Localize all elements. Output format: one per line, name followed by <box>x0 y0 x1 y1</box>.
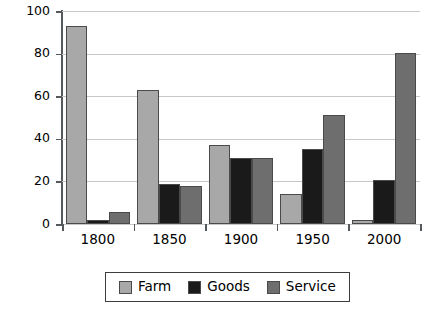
bar-service-1900 <box>252 158 274 224</box>
legend-item-goods[interactable]: Goods <box>188 280 250 294</box>
x-tick-mark <box>134 224 136 231</box>
legend-swatch-service-icon <box>267 281 280 294</box>
legend-swatch-farm-icon <box>119 281 132 294</box>
chart-legend: FarmGoodsService <box>105 272 350 302</box>
x-tick-label: 1950 <box>277 233 349 247</box>
x-tick-label: 1800 <box>62 233 134 247</box>
bar-farm-1900 <box>209 145 231 224</box>
x-tick-mark <box>348 224 350 231</box>
y-tick-label: 0 <box>14 218 50 231</box>
x-tick-label: 2000 <box>348 233 420 247</box>
legend-label: Farm <box>138 280 171 294</box>
x-tick-mark <box>205 224 207 231</box>
y-tick-label: 100 <box>14 5 50 18</box>
bar-chart-figure: Percent 020406080100 1800185019001950200… <box>0 0 430 312</box>
legend-item-farm[interactable]: Farm <box>119 280 171 294</box>
gridline <box>62 224 420 225</box>
bar-goods-1950 <box>302 149 324 224</box>
x-tick-label: 1900 <box>205 233 277 247</box>
bar-farm-2000 <box>352 220 374 224</box>
gridline <box>62 11 420 12</box>
x-tick-label: 1850 <box>133 233 205 247</box>
legend-swatch-goods-icon <box>188 281 201 294</box>
gridline <box>62 139 420 140</box>
bar-service-1950 <box>323 115 345 224</box>
x-tick-mark <box>62 224 64 231</box>
legend-label: Goods <box>207 280 250 294</box>
x-tick-mark <box>420 224 422 231</box>
y-tick-label: 40 <box>14 132 50 145</box>
bar-service-2000 <box>395 53 417 224</box>
bar-goods-1850 <box>159 184 181 224</box>
gridline <box>62 96 420 97</box>
bar-goods-2000 <box>373 180 395 224</box>
bar-service-1850 <box>180 186 202 224</box>
legend-label: Service <box>286 280 336 294</box>
y-tick-label: 20 <box>14 175 50 188</box>
gridline <box>62 54 420 55</box>
bar-farm-1950 <box>280 194 302 224</box>
bar-service-1800 <box>109 212 131 224</box>
bar-farm-1850 <box>137 90 159 224</box>
plot-area <box>62 11 420 224</box>
bar-farm-1800 <box>66 26 88 224</box>
bar-goods-1900 <box>230 158 252 224</box>
x-tick-mark <box>277 224 279 231</box>
y-tick-label: 80 <box>14 47 50 60</box>
y-tick-label: 60 <box>14 90 50 103</box>
bar-goods-1800 <box>87 220 109 224</box>
legend-item-service[interactable]: Service <box>267 280 336 294</box>
